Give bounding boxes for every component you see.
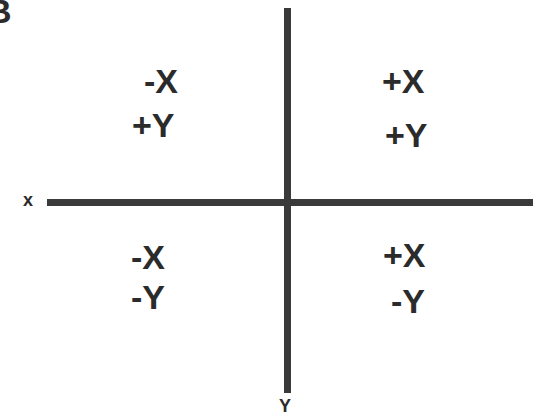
panel-label: B [0, 0, 12, 28]
quadrant-bottom-right-y: -Y [391, 284, 425, 318]
quadrant-bottom-left-x: -X [131, 240, 165, 274]
y-axis-label: Y [279, 397, 291, 415]
y-axis-line [284, 8, 291, 393]
quadrant-top-right-x: +X [382, 64, 425, 98]
quadrant-top-left-y: +Y [132, 108, 175, 142]
x-axis-label: x [23, 191, 33, 209]
quadrant-top-right-y: +Y [385, 118, 428, 152]
quadrant-top-left-x: -X [144, 64, 178, 98]
quadrant-bottom-left-y: -Y [131, 280, 165, 314]
quadrant-bottom-right-x: +X [383, 238, 426, 272]
